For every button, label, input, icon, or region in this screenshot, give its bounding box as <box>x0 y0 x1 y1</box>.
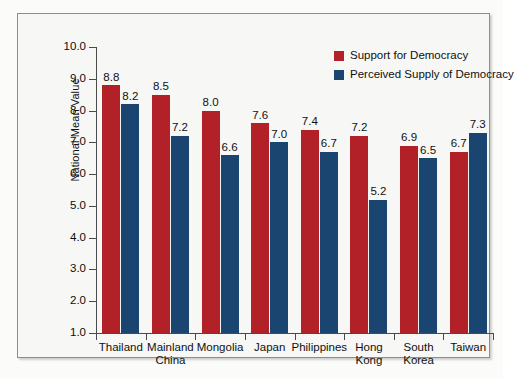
bar[interactable]: 7.3 <box>469 133 487 333</box>
bar[interactable]: 8.2 <box>121 104 139 333</box>
x-axis-tick <box>443 334 444 340</box>
bar[interactable]: 6.9 <box>400 146 418 333</box>
bar[interactable]: 6.7 <box>320 152 338 333</box>
bar-value-label: 6.6 <box>222 142 238 154</box>
x-axis-label: Taiwan <box>435 341 501 354</box>
legend-label: Perceived Supply of Democracy <box>350 69 514 81</box>
legend-item[interactable]: Support for Democracy <box>334 48 514 64</box>
chart-frame: National Mean Value 10.09.08.07.06.05.04… <box>17 13 490 358</box>
y-axis-tick-label: 9.0 <box>24 73 86 85</box>
bar[interactable]: 7.6 <box>251 123 269 333</box>
x-axis-tick <box>245 334 246 340</box>
bar-value-label: 7.2 <box>172 122 188 134</box>
x-axis-tick <box>146 334 147 340</box>
bar[interactable]: 5.2 <box>369 200 387 333</box>
y-axis-tick-label: 1.0 <box>24 327 86 339</box>
bar-value-label: 7.6 <box>252 110 268 122</box>
y-axis-tick-label: 6.0 <box>24 168 86 180</box>
bar[interactable]: 8.8 <box>102 85 120 333</box>
bar-value-label: 7.0 <box>271 129 287 141</box>
y-axis-tick-label: 5.0 <box>24 200 86 212</box>
y-axis-tick <box>89 238 96 239</box>
bar-value-label: 8.0 <box>203 97 219 109</box>
y-axis-tick <box>89 142 96 143</box>
y-axis-tick <box>89 79 96 80</box>
bar-value-label: 7.3 <box>470 119 486 131</box>
bar-group: 7.25.2 <box>350 47 387 333</box>
x-axis-tick <box>493 334 494 340</box>
bar-value-label: 5.2 <box>370 186 386 198</box>
bar-group: 8.57.2 <box>152 47 189 333</box>
bar-group: 7.67.0 <box>251 47 288 333</box>
y-axis-tick <box>89 111 96 112</box>
bar-value-label: 6.7 <box>451 138 467 150</box>
legend-item[interactable]: Perceived Supply of Democracy <box>334 67 514 83</box>
y-axis-tick-label: 4.0 <box>24 232 86 244</box>
legend-swatch-icon <box>334 51 344 61</box>
legend-label: Support for Democracy <box>350 50 468 62</box>
bar[interactable]: 8.5 <box>152 95 170 333</box>
bar[interactable]: 7.0 <box>270 142 288 333</box>
bar-value-label: 7.4 <box>302 116 318 128</box>
bar-group: 7.46.7 <box>301 47 338 333</box>
bar-value-label: 6.5 <box>420 145 436 157</box>
y-axis-tick-label: 3.0 <box>24 263 86 275</box>
y-axis-tick-label: 2.0 <box>24 295 86 307</box>
bar-value-label: 8.8 <box>103 72 119 84</box>
bar[interactable]: 7.2 <box>171 136 189 333</box>
bar[interactable]: 6.7 <box>450 152 468 333</box>
bar-value-label: 6.7 <box>321 138 337 150</box>
y-axis-tick <box>89 333 96 334</box>
x-axis-tick <box>394 334 395 340</box>
bar-group: 8.06.6 <box>202 47 239 333</box>
bar-value-label: 8.5 <box>153 81 169 93</box>
y-axis-tick <box>89 269 96 270</box>
bar[interactable]: 6.6 <box>221 155 239 333</box>
x-axis-tick <box>195 334 196 340</box>
y-axis-tick <box>89 206 96 207</box>
legend-swatch-icon <box>334 70 344 80</box>
plot-area: 8.88.28.57.28.06.67.67.07.46.77.25.26.96… <box>96 47 493 333</box>
y-axis-tick-label: 7.0 <box>24 136 86 148</box>
bar-value-label: 6.9 <box>401 132 417 144</box>
bar-group: 6.96.5 <box>400 47 437 333</box>
y-axis-tick <box>89 174 96 175</box>
bar[interactable]: 8.0 <box>202 111 220 333</box>
bar-group: 8.88.2 <box>102 47 139 333</box>
x-axis-tick <box>344 334 345 340</box>
x-axis-tick <box>96 334 97 340</box>
x-axis-tick <box>295 334 296 340</box>
y-axis-tick <box>89 47 96 48</box>
bar-group: 6.77.3 <box>450 47 487 333</box>
y-axis-tick <box>89 301 96 302</box>
bar[interactable]: 6.5 <box>419 158 437 333</box>
bar-value-label: 8.2 <box>122 91 138 103</box>
y-axis-tick-label: 10.0 <box>24 41 86 53</box>
bar[interactable]: 7.2 <box>350 136 368 333</box>
bar[interactable]: 7.4 <box>301 130 319 333</box>
chart-legend: Support for DemocracyPerceived Supply of… <box>334 48 514 86</box>
bar-value-label: 7.2 <box>351 122 367 134</box>
y-axis-tick-label: 8.0 <box>24 105 86 117</box>
